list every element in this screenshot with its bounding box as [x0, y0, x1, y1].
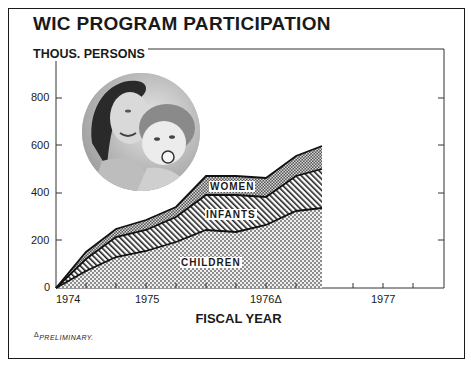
label-infants: INFANTS	[205, 209, 257, 220]
footnote: ΔPRELIMINARY.	[34, 331, 94, 341]
x-tick-label-1974: 1974	[56, 293, 80, 305]
y-tick-label-600: 600	[31, 139, 49, 151]
x-tick-label-1976: 1976Δ	[250, 293, 282, 305]
y-tick-label-400: 400	[31, 186, 49, 198]
y-axis-unit-label: THOUS. PERSONS	[33, 47, 147, 61]
x-tick-label-1977: 1977	[371, 293, 395, 305]
label-women: WOMEN	[209, 181, 255, 192]
y-tick-label-800: 800	[31, 91, 49, 103]
label-children: CHILDREN	[180, 257, 242, 268]
y-tick-label-200: 200	[31, 234, 49, 246]
footnote-text: PRELIMINARY.	[39, 334, 94, 341]
y-tick-label-0: 0	[44, 281, 50, 293]
x-tick-label-1975: 1975	[135, 293, 159, 305]
x-axis-title: FISCAL YEAR	[0, 311, 471, 326]
